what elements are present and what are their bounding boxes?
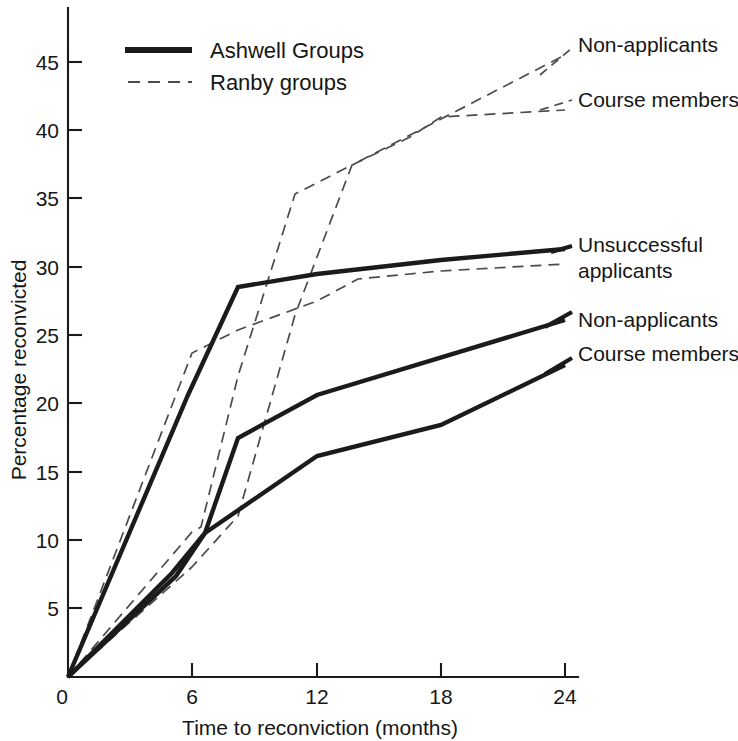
y-axis-ticks: 45 40 35 30 25 20 15 10 5 0	[36, 51, 82, 708]
y-ticklabel-35: 35	[36, 187, 59, 210]
legend-label-ashwell: Ashwell Groups	[210, 38, 364, 63]
leader-ashwell-unsuccessful-applicants	[551, 246, 572, 252]
end-label-ashwell-non-applicants: Non-applicants	[578, 308, 718, 331]
end-label-unsuccessful-applicants-line2: applicants	[578, 259, 673, 282]
y-ticklabel-20: 20	[36, 392, 59, 415]
y-axis-title: Percentage reconvicted	[7, 260, 30, 481]
y-ticklabel-10: 10	[36, 529, 59, 552]
end-labels: Non-applicants Course members Unsuccessf…	[578, 33, 738, 365]
y-ticklabel-15: 15	[36, 461, 59, 484]
x-axis-title: Time to reconviction (months)	[182, 716, 458, 739]
y-ticklabel-25: 25	[36, 324, 59, 347]
x-ticklabel-12: 12	[305, 685, 328, 708]
y-ticklabel-5: 5	[47, 597, 59, 620]
y-ticklabel-45: 45	[36, 51, 59, 74]
chart-canvas: 45 40 35 30 25 20 15 10 5 0 6 12 18 24 T…	[0, 0, 738, 741]
x-ticklabel-18: 18	[429, 685, 452, 708]
series-line-ashwell-unsuccessful-applicants	[68, 249, 565, 677]
x-ticklabel-24: 24	[553, 685, 577, 708]
end-label-leaders	[540, 48, 572, 374]
x-axis-ticks: 6 12 18 24	[186, 663, 577, 708]
series-line-ranby-unsuccessful-applicants	[68, 264, 565, 677]
y-ticklabel-30: 30	[36, 256, 59, 279]
x-ticklabel-6: 6	[186, 685, 198, 708]
end-label-ranby-non-applicants: Non-applicants	[578, 33, 718, 56]
leader-ranby-course-members	[540, 100, 572, 110]
series-line-ranby-non-applicants	[68, 55, 565, 677]
series-group-ranby	[68, 55, 565, 677]
series-line-ashwell-course-members	[68, 365, 565, 677]
y-ticklabel-0: 0	[56, 685, 68, 708]
legend-label-ranby: Ranby groups	[210, 70, 347, 95]
axes	[68, 8, 578, 677]
end-label-ashwell-course-members: Course members	[578, 342, 738, 365]
reconviction-chart: 45 40 35 30 25 20 15 10 5 0 6 12 18 24 T…	[0, 0, 738, 741]
legend: Ashwell Groups Ranby groups	[125, 38, 364, 95]
end-label-ranby-course-members: Course members	[578, 88, 738, 111]
y-ticklabel-40: 40	[36, 119, 59, 142]
series-group-ashwell	[68, 249, 565, 677]
leader-ashwell-non-applicants	[545, 312, 572, 327]
leader-ranby-non-applicants	[540, 48, 572, 75]
end-label-unsuccessful-applicants-line1: Unsuccessful	[578, 233, 703, 256]
leader-ashwell-course-members	[545, 358, 572, 374]
